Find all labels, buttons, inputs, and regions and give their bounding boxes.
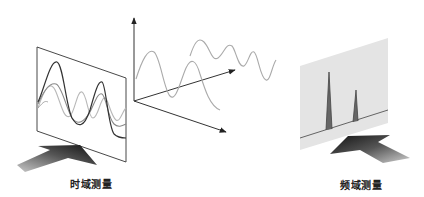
time-domain-label: 时域测量 [70, 176, 112, 191]
3d-axes [134, 18, 235, 132]
frequency-domain-label: 频域测量 [340, 177, 382, 192]
frequency-domain-arrow-icon [330, 135, 410, 163]
time-domain-panel [37, 47, 126, 162]
frequency-domain-panel [300, 38, 388, 150]
decomposed-waves [136, 40, 276, 110]
x-axis [134, 70, 235, 101]
wave-high-freq [190, 40, 276, 80]
wave-low-freq [136, 51, 220, 110]
diagram-canvas [0, 0, 424, 197]
z-axis [134, 101, 226, 132]
time-domain-arrow-icon [17, 145, 97, 172]
